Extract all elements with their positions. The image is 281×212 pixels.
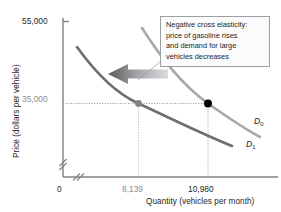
callout-line-3: and demand for large — [166, 41, 265, 52]
callout-line-4: vehicles decreases — [166, 52, 265, 63]
x-tick-label-8139: 8,139 — [122, 185, 143, 194]
y-tick-label-35000: 35,000 — [22, 95, 48, 104]
x-axis-label: Quantity (vehicles per month) — [146, 198, 254, 207]
y-axis-label: Price (dollars per vehicle) — [13, 64, 22, 158]
shift-arrow-icon — [108, 64, 168, 84]
curve-label-d1-subscript: 1 — [252, 144, 255, 150]
x-tick-label-0: 0 — [57, 185, 62, 194]
y-tick-label-55000: 55,000 — [22, 17, 48, 26]
curve-label-d0: D0 — [254, 117, 263, 126]
callout-line-1: Negative cross elasticity: — [166, 20, 265, 31]
callout-line-2: price of gasoline rises — [166, 31, 265, 42]
curve-label-d1: D1 — [246, 140, 255, 149]
point-marker-d1 — [135, 100, 142, 107]
x-tick-label-10980: 10,980 — [188, 185, 214, 194]
chart-figure: Price (dollars per vehicle) Quantity (ve… — [0, 0, 281, 212]
curve-label-d0-subscript: 0 — [260, 121, 263, 127]
annotation-callout-box: Negative cross elasticity: price of gaso… — [160, 16, 270, 67]
point-marker-d0 — [204, 100, 212, 108]
